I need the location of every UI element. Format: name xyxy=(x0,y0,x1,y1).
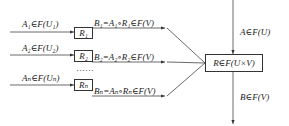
output-label-n: Bₙ=Aₙ∘Rₙ∈F(V) xyxy=(94,86,156,96)
input-label-1: A₁∈F(U₁) xyxy=(22,19,58,29)
fuzzy-relation-diagram: A₁∈F(U₁) A₂∈F(U₂) Aₙ∈F(Uₙ) R₁ R₂ Rₙ B₁=A… xyxy=(0,0,289,126)
output-label-2: B₂=A₂∘R₂∈F(V) xyxy=(94,52,154,62)
relation-box-1: R₁ xyxy=(74,27,93,39)
ellipsis: …… xyxy=(76,63,94,73)
output-label-1: B₁=A₁∘R₁∈F(V) xyxy=(94,18,154,28)
input-label-2: A₂∈F(U₂) xyxy=(22,43,58,53)
relation-box-2: R₂ xyxy=(74,50,93,62)
bottom-output-label: B∈F(V) xyxy=(240,92,269,102)
relation-box-n: Rₙ xyxy=(74,79,93,91)
top-input-label: A∈F(U) xyxy=(240,27,270,37)
input-label-n: Aₙ∈F(Uₙ) xyxy=(22,73,59,83)
combined-relation-box: R∈F(U×V) xyxy=(205,54,263,72)
